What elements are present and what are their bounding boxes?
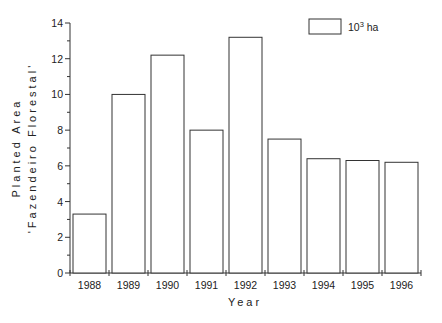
x-axis-title: Year: [228, 296, 262, 308]
x-tick-label: 1990: [156, 279, 180, 291]
bar-1990: [151, 55, 184, 273]
legend: 103 ha: [309, 19, 379, 34]
y-axis-title-line1: Planted Area: [10, 99, 22, 198]
bar-1995: [346, 161, 379, 274]
x-tick-label: 1989: [117, 279, 141, 291]
y-axis: 02468101214: [51, 17, 70, 279]
y-tick-label: 10: [51, 88, 63, 100]
x-tick-label: 1991: [195, 279, 219, 291]
bar-chart: 02468101214 1988198919901991199219931994…: [0, 0, 442, 323]
x-tick-label: 1992: [234, 279, 258, 291]
y-tick-label: 14: [51, 17, 63, 29]
bars: [73, 37, 418, 273]
bar-1991: [190, 130, 223, 273]
x-tick-label: 1994: [312, 279, 336, 291]
bar-1989: [112, 94, 145, 273]
bar-1988: [73, 214, 106, 273]
bar-1993: [268, 139, 301, 273]
y-tick-label: 4: [57, 196, 63, 208]
y-axis-title-line2: 'Fazendeiro Florestal': [26, 63, 38, 233]
y-tick-label: 8: [57, 124, 63, 136]
bar-1996: [385, 162, 418, 273]
y-tick-label: 2: [57, 231, 63, 243]
x-tick-label: 1996: [390, 279, 414, 291]
x-tick-label: 1988: [78, 279, 102, 291]
legend-label: 103 ha: [348, 20, 379, 33]
bar-1994: [307, 159, 340, 273]
bar-1992: [229, 37, 262, 273]
y-tick-label: 0: [57, 267, 63, 279]
x-tick-label: 1993: [273, 279, 297, 291]
y-tick-label: 12: [51, 53, 63, 65]
legend-swatch: [309, 19, 341, 34]
y-tick-label: 6: [57, 160, 63, 172]
x-tick-label: 1995: [351, 279, 375, 291]
